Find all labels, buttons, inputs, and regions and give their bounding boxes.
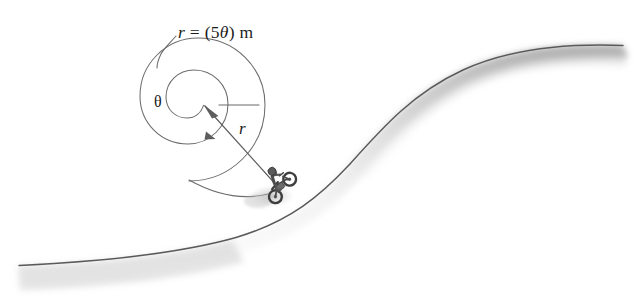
theta-angle-label: θ [154,93,162,111]
radius-label: r [239,119,246,139]
motorcycle-rider [244,159,302,208]
equation-operator: = (5 [185,22,220,42]
terrain-fill-crest [350,46,626,182]
terrain-fill-plain [18,240,244,290]
bike-dust-cloud-trail [244,194,272,208]
equation-theta: θ [220,22,229,42]
spiral-path-curve [140,38,268,196]
terrain-ridge-line [19,45,623,265]
figure-canvas: r = (5θ) m θ r [0,0,642,302]
radial-vector-arrowhead [204,105,219,119]
equation-units: ) m [229,22,254,42]
terrain-fill-lower [20,46,628,284]
theta-arc-arrowhead [205,132,216,140]
radial-vector-r [204,105,279,188]
terrain-hill [18,45,628,290]
equation-label: r = (5θ) m [178,22,253,43]
diagram-svg [0,0,642,302]
